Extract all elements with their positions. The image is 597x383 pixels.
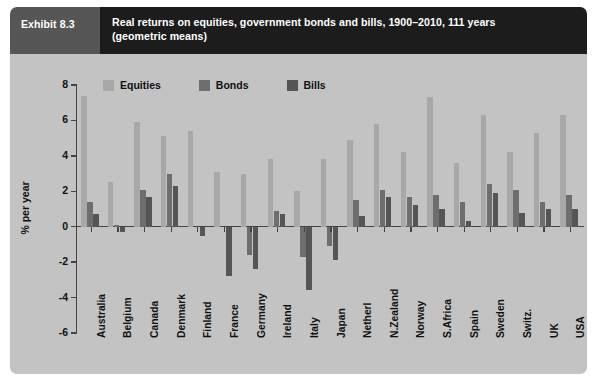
bar-sweden-bills [493, 193, 498, 227]
x-axis-category-label: Japan [336, 308, 347, 338]
x-axis-category-label: Spain [469, 310, 480, 338]
x-axis-tick-mark [330, 227, 331, 232]
bar-denmark-equities [161, 136, 166, 226]
bar-usa-equities [560, 115, 565, 227]
x-axis-tick-mark [464, 227, 465, 232]
x-axis-category-label: Australia [96, 294, 107, 338]
x-axis-tick-mark [171, 227, 172, 232]
y-axis-tick-mark [71, 261, 77, 262]
x-axis-tick-mark [224, 227, 225, 232]
bar-nzealand-equities [374, 124, 379, 227]
bar-australia-equities [81, 96, 86, 227]
bar-switz-bills [519, 213, 524, 227]
bar-australia-bills [93, 214, 98, 226]
x-axis-tick-mark [490, 227, 491, 232]
x-axis-tick-mark [277, 227, 278, 232]
bar-ireland-equities [268, 159, 273, 226]
bar-belgium-equities [108, 182, 113, 226]
x-axis-category-label: Finland [202, 301, 213, 338]
bar-italy-equities [294, 191, 299, 226]
x-axis-category-label: Netherl [362, 303, 373, 338]
bar-norway-bills [413, 205, 418, 226]
x-axis-tick-mark [250, 227, 251, 232]
bar-canada-equities [134, 122, 139, 227]
bar-belgium-bills [120, 227, 125, 232]
x-axis-category-label: Switz. [522, 309, 533, 338]
x-axis-category-label: Sweden [495, 299, 506, 338]
x-axis-tick-mark [437, 227, 438, 232]
bar-spain-equities [454, 163, 459, 227]
x-axis-category-label: France [229, 304, 240, 338]
bar-netherl-bills [359, 216, 364, 227]
x-axis-tick-mark [304, 227, 305, 232]
bar-uk-equities [534, 133, 539, 227]
plot-area: EquitiesBondsBills % per year 86420-2-4-… [10, 54, 587, 374]
bar-nzealand-bills [386, 197, 391, 227]
bar-japan-equities [321, 159, 326, 226]
x-axis-category-label: Belgium [122, 297, 133, 338]
bar-switz-equities [507, 152, 512, 226]
x-axis-category-label: Germany [256, 293, 267, 338]
bar-switz-bonds [513, 190, 518, 227]
bar-sweden-equities [481, 115, 486, 227]
exhibit-header: Exhibit 8.3 Real returns on equities, go… [10, 7, 587, 54]
bar-france-bills [226, 227, 231, 277]
bar-finland-equities [188, 131, 193, 227]
bar-uk-bonds [540, 202, 545, 227]
bar-safrica-equities [427, 97, 432, 226]
bar-finland-bills [200, 227, 205, 236]
bar-germany-bills [253, 227, 258, 270]
x-axis-tick-mark [117, 227, 118, 232]
y-axis-tick-mark [71, 191, 77, 192]
bar-nzealand-bonds [380, 190, 385, 227]
x-axis-tick-mark [197, 227, 198, 232]
exhibit-title-line-2: (geometric means) [112, 30, 207, 42]
bar-norway-equities [401, 152, 406, 226]
bar-denmark-bills [173, 186, 178, 227]
x-axis-category-label: USA [575, 316, 586, 338]
x-axis-tick-mark [144, 227, 145, 232]
y-axis-tick-mark [71, 155, 77, 156]
x-axis-tick-mark [517, 227, 518, 232]
x-axis-category-label: UK [549, 323, 560, 338]
x-axis-category-label: S.Africa [442, 299, 453, 338]
bar-germany-equities [241, 174, 246, 227]
x-axis-tick-mark [384, 227, 385, 232]
bar-ireland-bills [280, 214, 285, 226]
bar-sweden-bonds [487, 184, 492, 227]
bar-norway-bonds [407, 197, 412, 227]
bar-spain-bills [466, 221, 471, 226]
x-axis-category-label: Canada [149, 301, 160, 338]
bar-safrica-bonds [433, 195, 438, 227]
bar-uk-bills [546, 209, 551, 227]
bar-canada-bonds [140, 190, 145, 227]
exhibit-title-box: Real returns on equities, government bon… [100, 7, 587, 54]
y-axis-tick-mark [71, 84, 77, 85]
bar-japan-bills [333, 227, 338, 261]
x-axis-category-label: Norway [415, 301, 426, 338]
x-axis-category-label: N.Zealand [389, 289, 400, 338]
x-axis-tick-mark [410, 227, 411, 232]
bar-denmark-bonds [167, 174, 172, 227]
x-axis-tick-mark [357, 227, 358, 232]
x-axis-tick-mark [91, 227, 92, 232]
x-axis-category-label: Denmark [176, 294, 187, 338]
y-axis-tick-mark [71, 297, 77, 298]
bar-netherl-equities [347, 140, 352, 227]
exhibit-number-box: Exhibit 8.3 [10, 7, 100, 54]
bar-ireland-bonds [274, 211, 279, 227]
bar-usa-bills [572, 209, 577, 227]
bar-italy-bills [306, 227, 311, 291]
x-axis-category-label: Ireland [282, 304, 293, 338]
exhibit-title: Real returns on equities, government bon… [112, 16, 575, 44]
exhibit-title-line-1: Real returns on equities, government bon… [112, 16, 495, 28]
x-axis-category-label: Italy [309, 317, 320, 338]
x-axis-tick-mark [570, 227, 571, 232]
bars-layer: AustraliaBelgiumCanadaDenmarkFinlandFran… [10, 54, 587, 374]
x-axis-tick-mark [543, 227, 544, 232]
bar-canada-bills [146, 197, 151, 227]
y-axis-tick-mark [71, 226, 77, 227]
bar-france-equities [214, 172, 219, 227]
bar-safrica-bills [439, 209, 444, 227]
y-axis-tick-mark [71, 332, 77, 333]
